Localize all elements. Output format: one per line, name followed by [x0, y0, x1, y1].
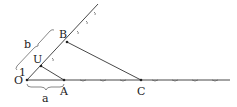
label-unit: 1 — [19, 66, 26, 79]
label-a: A — [59, 85, 69, 98]
construction-diagram: O A U B C 1 a b — [0, 0, 237, 107]
segment-bc — [67, 42, 141, 80]
point-a — [63, 79, 66, 82]
label-a-length: a — [42, 92, 49, 105]
label-b: B — [59, 28, 67, 41]
segment-ua — [41, 66, 64, 80]
brace-a — [27, 84, 64, 90]
label-u: U — [33, 53, 42, 66]
upper-ray — [27, 4, 98, 80]
point-c — [140, 79, 143, 82]
label-c: C — [137, 85, 145, 98]
point-b — [66, 41, 69, 44]
point-o — [26, 79, 29, 82]
label-b-length: b — [24, 38, 31, 51]
